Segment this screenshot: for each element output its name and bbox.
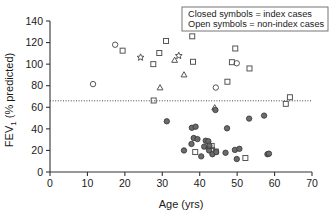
y-axis-title-prefix: FEV — [3, 125, 15, 147]
closed-marker-circle — [246, 116, 251, 121]
closed-marker-circle — [164, 119, 169, 124]
x-tick-label: 50 — [231, 177, 243, 189]
closed-marker-circle — [213, 107, 218, 112]
open-marker-square — [193, 150, 198, 155]
closed-marker-circle — [199, 154, 204, 159]
legend-line-closed: Closed symbols = index cases — [188, 9, 312, 19]
open-marker-circle — [112, 42, 117, 47]
legend: Closed symbols = index cases Open symbol… — [182, 7, 328, 31]
open-marker-square — [247, 66, 252, 71]
closed-marker-circle — [237, 146, 242, 151]
x-tick-label: 40 — [194, 177, 206, 189]
open-marker-square — [233, 46, 238, 51]
closed-marker-circle — [223, 150, 228, 155]
open-marker-square — [164, 38, 169, 43]
x-tick-label: 60 — [269, 177, 281, 189]
closed-marker-circle — [207, 143, 212, 148]
closed-marker-circle — [213, 149, 218, 154]
y-axis-title-suffix: (% predicted) — [3, 53, 15, 121]
open-marker-square — [151, 62, 156, 67]
open-marker-star — [175, 52, 182, 59]
open-marker-square — [120, 48, 125, 53]
open-marker-square — [225, 79, 230, 84]
open-marker-circle — [90, 81, 95, 86]
open-marker-square — [190, 34, 195, 39]
open-marker-square — [287, 95, 292, 100]
x-tick-label: 0 — [47, 177, 53, 189]
y-tick-label: 140 — [25, 15, 43, 27]
open-marker-square — [283, 101, 288, 106]
y-tick-label: 40 — [31, 123, 43, 135]
open-marker-circle — [213, 85, 218, 90]
y-tick-label: 20 — [31, 144, 43, 156]
y-tick-label: 0 — [37, 166, 43, 178]
scatter-plot-figure: 010203040506070 020406080100120140 Age (… — [0, 0, 334, 216]
closed-marker-circle — [261, 113, 266, 118]
y-tick-label: 80 — [31, 79, 43, 91]
x-axis-title: Age (yrs) — [159, 198, 204, 210]
x-tick-label: 70 — [306, 177, 318, 189]
closed-marker-circle — [193, 124, 198, 129]
y-tick-label: 120 — [25, 36, 43, 48]
x-axis-tick-labels: 010203040506070 — [47, 177, 318, 189]
y-tick-label: 100 — [25, 58, 43, 70]
x-tick-label: 10 — [82, 177, 94, 189]
closed-marker-circle — [181, 148, 186, 153]
y-tick-label: 60 — [31, 101, 43, 113]
y-axis-tick-labels: 020406080100120140 — [25, 15, 43, 178]
chart-svg: 010203040506070 020406080100120140 Age (… — [0, 0, 334, 216]
x-tick-label: 20 — [119, 177, 131, 189]
open-marker-square — [157, 51, 162, 56]
closed-marker-circle — [189, 141, 194, 146]
open-marker-star — [137, 54, 144, 61]
closed-marker-circle — [266, 151, 271, 156]
open-marker-circle — [234, 61, 239, 66]
open-marker-square — [229, 60, 234, 65]
closed-marker-circle — [195, 136, 200, 141]
axis-tick-marks — [46, 21, 312, 176]
open-marker-square — [243, 155, 248, 160]
x-tick-label: 30 — [156, 177, 168, 189]
closed-marker-circle — [224, 126, 229, 131]
open-marker-square — [190, 59, 195, 64]
open-marker-triangle — [157, 85, 163, 90]
legend-line-open: Open symbols = non-index cases — [188, 19, 325, 29]
data-point-layer — [90, 34, 292, 162]
y-axis-title: FEV1 (% predicted) — [3, 53, 18, 147]
closed-marker-circle — [234, 156, 239, 161]
open-marker-triangle — [181, 72, 187, 77]
svg-text:FEV1 (% predicted): FEV1 (% predicted) — [3, 53, 18, 147]
